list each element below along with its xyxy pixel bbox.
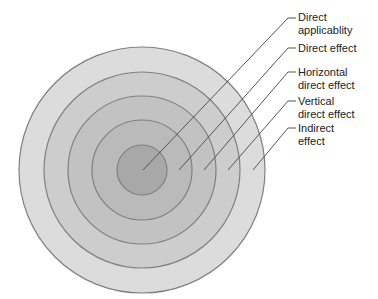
label-line: Horizontal xyxy=(298,66,355,79)
label-direct-effect: Direct effect xyxy=(298,42,357,55)
label-line: effect xyxy=(298,135,334,148)
label-line: direct effect xyxy=(298,108,355,121)
label-indirect-effect: Indirect effect xyxy=(298,122,334,147)
label-line: applicablity xyxy=(298,24,352,37)
label-line: Vertical xyxy=(298,95,355,108)
label-horizontal-direct-effect: Horizontal direct effect xyxy=(298,66,355,91)
label-line: Direct effect xyxy=(298,42,357,55)
label-line: direct effect xyxy=(298,79,355,92)
label-vertical-direct-effect: Vertical direct effect xyxy=(298,95,355,120)
label-direct-applicability: Direct applicablity xyxy=(298,11,352,36)
label-line: Direct xyxy=(298,11,352,24)
label-line: Indirect xyxy=(298,122,334,135)
